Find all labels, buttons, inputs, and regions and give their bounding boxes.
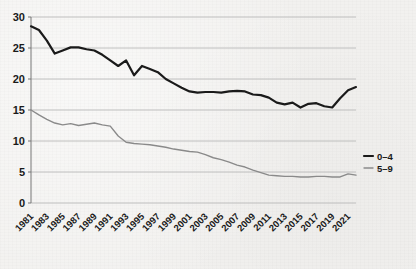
gridline-group (31, 17, 356, 203)
y-tick-label-0: 0 (19, 197, 25, 209)
y-tick-label-20: 20 (13, 73, 25, 85)
y-tick-label-25: 25 (13, 42, 25, 54)
y-tick-label-group: 051015202530 (13, 11, 31, 209)
y-tick-label-5: 5 (19, 166, 25, 178)
legend-label-0-4[interactable]: 0–4 (377, 151, 394, 162)
legend-label-5-9[interactable]: 5–9 (377, 163, 393, 174)
y-tick-label-15: 15 (13, 104, 25, 116)
series-line-0-4 (31, 26, 356, 107)
series-line-group (31, 26, 356, 177)
chart-canvas: 051015202530 198119831985198719891991199… (0, 0, 416, 269)
x-tick-label-2021: 2021 (330, 210, 353, 233)
line-chart: 051015202530 198119831985198719891991199… (0, 0, 416, 269)
y-tick-label-10: 10 (13, 135, 25, 147)
chart-legend[interactable]: 0–45–9 (364, 151, 394, 174)
x-tick-label-group: 1981198319851987198919911993199519971999… (13, 210, 353, 233)
series-line-5-9 (31, 110, 356, 177)
y-tick-label-30: 30 (13, 11, 25, 23)
